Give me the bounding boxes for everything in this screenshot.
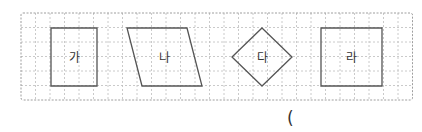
shape-ga: 가 bbox=[51, 28, 97, 86]
shape-da: 다 bbox=[232, 28, 292, 86]
shape-label-ra: 라 bbox=[346, 51, 357, 65]
shape-label-da: 다 bbox=[257, 51, 268, 65]
shape-na: 나 bbox=[127, 28, 202, 86]
answer-blank-open-paren: ( bbox=[287, 108, 294, 128]
shape-label-ga: 가 bbox=[69, 51, 80, 65]
shape-label-na: 나 bbox=[159, 51, 170, 65]
shape-ra: 라 bbox=[321, 28, 382, 86]
shapes-group: 가나다라 bbox=[51, 28, 382, 86]
shapes-figure: 가나다라 bbox=[0, 0, 422, 132]
